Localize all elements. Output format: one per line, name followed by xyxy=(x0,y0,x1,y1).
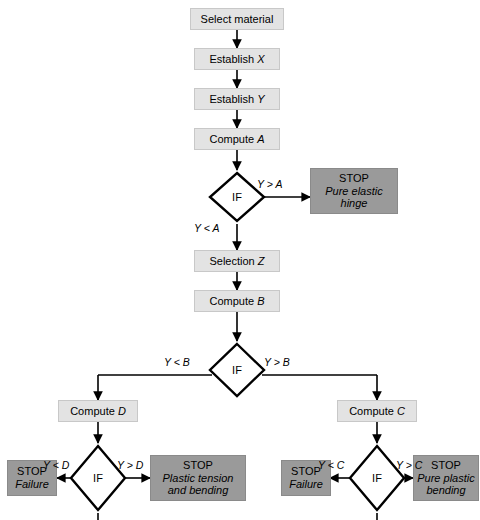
decision-if-d-label: IF xyxy=(68,443,128,513)
stop-detail-line2: bending xyxy=(426,484,465,497)
node-stop-pure-plastic-bending[interactable]: STOP Pure plastic bending xyxy=(413,455,479,501)
stop-detail-line1: Failure xyxy=(289,478,323,491)
stop-label: STOP xyxy=(183,459,213,472)
stop-label: STOP xyxy=(431,459,461,472)
flowchart-canvas: IF IF IF IF Select material Establish X … xyxy=(0,0,480,520)
edge-label-y-gt-b: Y > B xyxy=(264,356,290,368)
edge-label-y-lt-d: Y < D xyxy=(43,459,69,471)
stop-label: STOP xyxy=(339,172,369,185)
node-compute-c[interactable]: Compute C xyxy=(337,400,417,422)
stop-detail-line1: Pure plastic xyxy=(417,472,474,485)
node-compute-a[interactable]: Compute A xyxy=(194,128,280,150)
node-compute-c-label: Compute C xyxy=(349,405,405,418)
stop-detail-line1: Failure xyxy=(15,478,49,491)
edge-label-y-lt-a: Y < A xyxy=(194,222,219,234)
node-compute-d[interactable]: Compute D xyxy=(58,400,138,422)
node-compute-b[interactable]: Compute B xyxy=(194,290,280,312)
edge-label-y-gt-d: Y > D xyxy=(117,459,143,471)
stop-detail-line2: and bending xyxy=(168,484,229,497)
node-establish-x-label: Establish X xyxy=(209,53,264,66)
node-establish-y-label: Establish Y xyxy=(209,93,264,106)
edge-label-y-lt-c: Y < C xyxy=(318,459,344,471)
stop-label: STOP xyxy=(291,465,321,478)
node-establish-y[interactable]: Establish Y xyxy=(194,88,280,110)
decision-if-c-label: IF xyxy=(347,443,407,513)
stop-detail-line1: Plastic tension xyxy=(163,472,234,485)
node-compute-a-label: Compute A xyxy=(209,133,264,146)
node-select-material[interactable]: Select material xyxy=(190,8,284,30)
decision-if-b-label: IF xyxy=(207,341,267,399)
edge-label-y-lt-b: Y < B xyxy=(164,356,190,368)
node-selection-z-label: Selection Z xyxy=(209,255,264,268)
stop-detail-line2: hinge xyxy=(341,197,368,210)
node-compute-b-label: Compute B xyxy=(209,295,264,308)
node-stop-pure-elastic-hinge[interactable]: STOP Pure elastic hinge xyxy=(310,168,398,214)
node-select-material-label: Select material xyxy=(201,13,274,26)
node-stop-plastic-tension-bending[interactable]: STOP Plastic tension and bending xyxy=(150,455,246,501)
node-establish-x[interactable]: Establish X xyxy=(194,48,280,70)
stop-detail-line1: Pure elastic xyxy=(325,185,382,198)
edge-label-y-gt-c: Y > C xyxy=(396,459,422,471)
decision-if-d[interactable]: IF xyxy=(68,443,128,513)
decision-if-c[interactable]: IF xyxy=(347,443,407,513)
node-compute-d-label: Compute D xyxy=(70,405,126,418)
decision-if-b[interactable]: IF xyxy=(207,341,267,399)
edge-label-y-gt-a: Y > A xyxy=(257,178,282,190)
node-selection-z[interactable]: Selection Z xyxy=(194,250,280,272)
